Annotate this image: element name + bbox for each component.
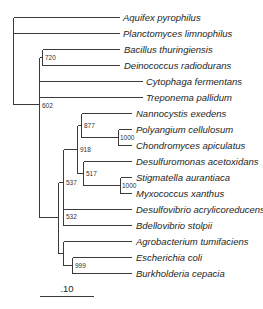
taxon-label: Bdellovibrio stolpii [136, 220, 213, 231]
taxon-label: Aquifex pyrophilus [122, 12, 201, 23]
taxon-label: Myxococcus xanthus [136, 188, 224, 199]
bootstrap-value: 602 [42, 102, 53, 109]
scale-bar: .10 [40, 283, 94, 297]
phylogenetic-tree: Aquifex pyrophilusPlanctomyces limnophil… [0, 0, 263, 309]
bootstrap-value: 877 [84, 122, 95, 129]
taxon-label: Treponema pallidum [146, 92, 232, 103]
taxon-label: Stigmatella aurantiaca [136, 172, 230, 183]
taxon-label: Chondromyces apiculatus [136, 140, 246, 151]
taxon-label: Desulfuromonas acetoxidans [136, 156, 259, 167]
bootstrap-value: 1000 [120, 134, 135, 141]
taxon-label: Deinococcus radiodurans [124, 60, 231, 71]
taxon-label: Burkholderia cepacia [136, 268, 225, 279]
bootstrap-value: 918 [80, 146, 91, 153]
taxon-label: Planctomyces limnophilus [123, 28, 233, 39]
taxon-label: Polyangium cellulosum [136, 124, 233, 135]
bootstrap-value: 532 [66, 213, 77, 220]
bootstrap-value: 1000 [122, 182, 137, 189]
taxon-label: Desulfovibrio acrylicoreducens [136, 204, 263, 215]
taxon-label: Cytophaga fermentans [146, 76, 242, 87]
scale-bar-label: .10 [60, 283, 73, 294]
taxon-label: Nannocystis exedens [136, 108, 227, 119]
taxon-label: Escherichia coli [136, 252, 203, 263]
taxon-labels: Aquifex pyrophilusPlanctomyces limnophil… [122, 12, 263, 279]
bootstrap-value: 537 [66, 179, 77, 186]
internal-branches [14, 18, 121, 274]
bootstrap-value: 720 [45, 54, 56, 61]
bootstrap-value: 517 [86, 170, 97, 177]
bootstrap-value: 999 [75, 262, 86, 269]
taxon-label: Agrobacterium tumifaciens [135, 236, 249, 247]
taxon-label: Bacillus thuringiensis [124, 44, 213, 55]
